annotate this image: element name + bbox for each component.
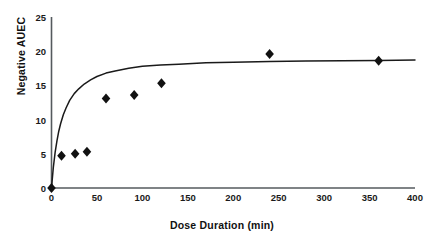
data-point-marker (265, 49, 274, 59)
data-point-marker (71, 149, 80, 159)
y-tick-label: 25 (26, 12, 46, 23)
data-point-marker (130, 90, 139, 100)
data-point-marker (157, 78, 166, 88)
x-tick-label: 350 (362, 192, 378, 203)
data-point-marker (83, 147, 92, 157)
y-tick-label: 0 (26, 183, 46, 194)
x-tick-label: 200 (225, 192, 241, 203)
data-point-markers (47, 49, 383, 193)
fit-curve (52, 60, 416, 188)
y-tick-label: 15 (26, 80, 46, 91)
x-tick-label: 300 (316, 192, 332, 203)
data-point-marker (102, 93, 111, 103)
chart-figure: 0510152025 050100150200250300350400 Nega… (0, 0, 444, 237)
y-tick-label: 20 (26, 46, 46, 57)
x-tick-label: 150 (180, 192, 196, 203)
x-tick-label: 100 (134, 192, 150, 203)
y-axis-title: Negative AUEC (15, 1, 27, 111)
x-tick-label: 50 (92, 192, 103, 203)
data-point-marker (374, 56, 383, 66)
data-point-marker (57, 151, 66, 161)
y-tick-label: 10 (26, 114, 46, 125)
y-tick-label: 5 (26, 148, 46, 159)
x-tick-label: 400 (407, 192, 423, 203)
x-tick-label: 250 (271, 192, 287, 203)
x-axis-title: Dose Duration (min) (0, 219, 444, 231)
x-tick-label: 0 (49, 192, 54, 203)
